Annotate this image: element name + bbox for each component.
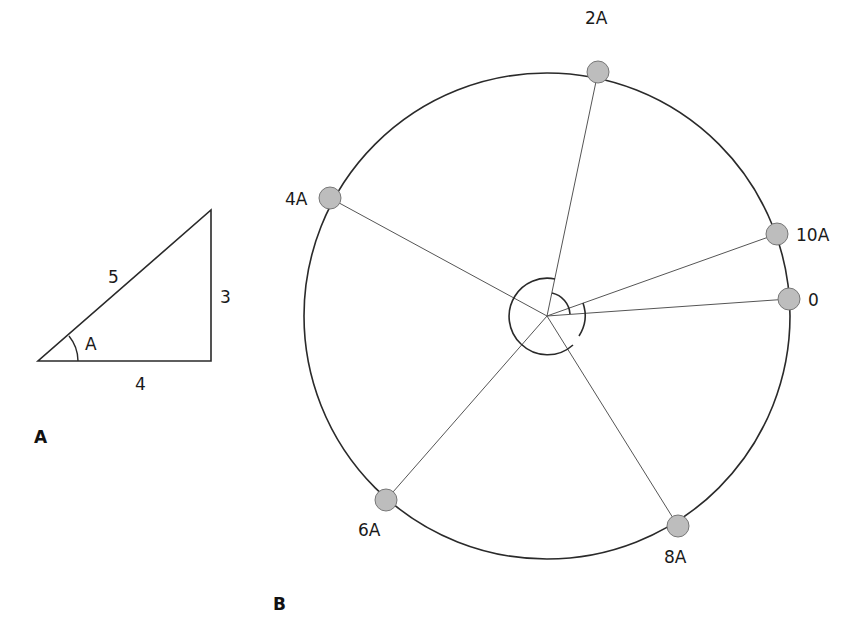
node-0 — [778, 288, 800, 310]
spoke-8a — [547, 316, 678, 526]
node-8a — [667, 515, 689, 537]
spoke-6a — [386, 316, 547, 500]
angle-a-arc — [69, 336, 78, 361]
angle-label: A — [85, 334, 97, 354]
node-2a — [587, 61, 609, 83]
node-4a — [319, 187, 341, 209]
panel-a: 5 3 4 A A — [34, 210, 231, 447]
node-6a — [375, 489, 397, 511]
panel-b: 0 10A 2A 4A 6A 8A B — [273, 8, 830, 614]
label-2a: 2A — [585, 8, 608, 28]
node-10a — [766, 223, 788, 245]
arc-middle — [579, 303, 585, 336]
spoke-0 — [547, 299, 789, 316]
right-triangle — [38, 210, 211, 361]
spokes — [330, 72, 789, 526]
panel-a-label: A — [34, 427, 48, 447]
label-10a: 10A — [796, 225, 830, 245]
panel-b-label: B — [273, 594, 286, 614]
adjacent-side-label: 4 — [135, 374, 146, 394]
label-0: 0 — [808, 290, 819, 310]
label-6a: 6A — [358, 520, 381, 540]
hypotenuse-label: 5 — [108, 267, 119, 287]
opposite-side-label: 3 — [220, 287, 231, 307]
spoke-10a — [547, 234, 777, 316]
diagram-canvas: 5 3 4 A A — [0, 0, 862, 641]
label-4a: 4A — [285, 189, 308, 209]
label-8a: 8A — [664, 547, 687, 567]
nodes — [319, 61, 800, 537]
